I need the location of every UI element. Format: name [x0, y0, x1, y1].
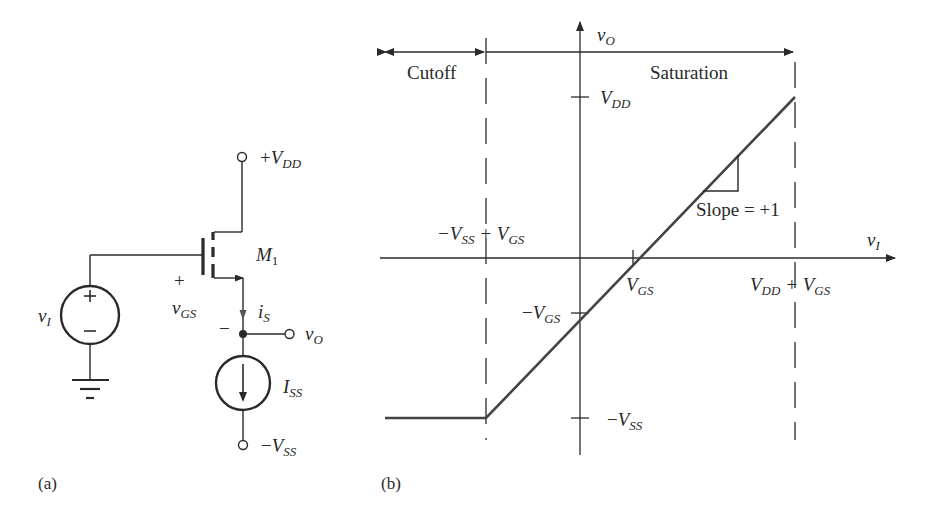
vgs-minus: − — [219, 319, 230, 338]
vgs-plus: + — [174, 271, 185, 290]
x-axis-label: vI — [867, 230, 880, 252]
mosfet-icon — [203, 232, 243, 278]
vss-label: −VSS — [261, 436, 296, 458]
vi-label: vI — [38, 306, 51, 328]
caption-a: (a) — [38, 475, 57, 492]
transistor-label: M1 — [256, 245, 278, 267]
ytick-neg-vss: −VSS — [607, 410, 642, 432]
region-cutoff: Cutoff — [407, 63, 456, 82]
vdd-label: +VDD — [260, 148, 301, 170]
slope-annotation: Slope = +1 — [696, 200, 780, 219]
vdd-terminal-icon — [238, 153, 247, 162]
ground-icon — [72, 380, 109, 398]
iss-label: ISS — [283, 377, 302, 399]
vo-label: vO — [305, 324, 323, 346]
region-saturation: Saturation — [650, 63, 728, 82]
current-arrow-icon — [240, 310, 247, 320]
vout-terminal-icon — [285, 330, 294, 339]
is-label: iS — [258, 302, 270, 324]
vgs-label: vGS — [172, 298, 196, 320]
y-axis-label: vO — [597, 25, 615, 47]
xtick-vdd-plus-vgs: VDD + VGS — [750, 275, 830, 297]
figure-canvas — [0, 0, 934, 515]
caption-b: (b) — [381, 475, 401, 492]
ytick-vdd: VDD — [600, 88, 630, 110]
ytick-neg-vgs: −VGS — [522, 303, 560, 325]
vss-terminal-icon — [239, 441, 248, 450]
xtick-vgs: VGS — [626, 275, 654, 297]
xtick-neg-vss-plus-vgs: −VSS + VGS — [437, 224, 524, 246]
